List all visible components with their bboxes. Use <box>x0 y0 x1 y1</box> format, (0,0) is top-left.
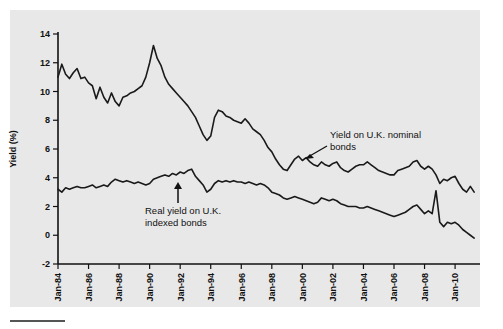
y-axis-title: Yield (%) <box>8 130 18 168</box>
x-tick-label: Jan-96 <box>237 273 247 302</box>
x-tick-label: Jan-02 <box>328 273 338 302</box>
x-tick-label: Jan-90 <box>145 273 155 302</box>
x-tick-label: Jan-10 <box>450 273 460 302</box>
x-tick-label: Jan-86 <box>84 273 94 302</box>
x-tick-label: Jan-88 <box>114 273 124 302</box>
yield-chart: -202468101214Yield (%)Jan-84Jan-86Jan-88… <box>0 0 503 329</box>
footer-rule <box>10 320 65 322</box>
annotation-real-line1: Real yield on U.K. <box>145 205 221 216</box>
x-tick-label: Jan-94 <box>206 273 216 302</box>
y-tick-label: 2 <box>45 202 50 212</box>
x-tick-label: Jan-84 <box>53 273 63 302</box>
x-tick-label: Jan-04 <box>359 273 369 302</box>
x-tick-label: Jan-00 <box>298 273 308 302</box>
y-tick-label: 14 <box>40 29 50 39</box>
annotation-nominal-line2: bonds <box>330 141 356 152</box>
x-tick-label: Jan-06 <box>389 273 399 302</box>
series-real-indexed-bonds <box>58 169 474 238</box>
annotation-nominal-line1: Yield on U.K. nominal <box>330 129 421 140</box>
x-tick-label: Jan-98 <box>267 273 277 302</box>
y-tick-label: 0 <box>45 230 50 240</box>
y-tick-label: 10 <box>40 87 50 97</box>
y-tick-label: -2 <box>42 259 50 269</box>
annotation-real-arrowhead <box>174 182 182 189</box>
series-nominal-bonds <box>58 46 474 193</box>
x-tick-label: Jan-92 <box>176 273 186 302</box>
annotation-real-line2: indexed bonds <box>145 217 207 228</box>
y-tick-label: 8 <box>45 115 50 125</box>
y-tick-label: 4 <box>45 173 50 183</box>
figure-container: -202468101214Yield (%)Jan-84Jan-86Jan-88… <box>0 0 503 329</box>
y-tick-label: 6 <box>45 144 50 154</box>
x-tick-label: Jan-08 <box>420 273 430 302</box>
y-tick-label: 12 <box>40 58 50 68</box>
